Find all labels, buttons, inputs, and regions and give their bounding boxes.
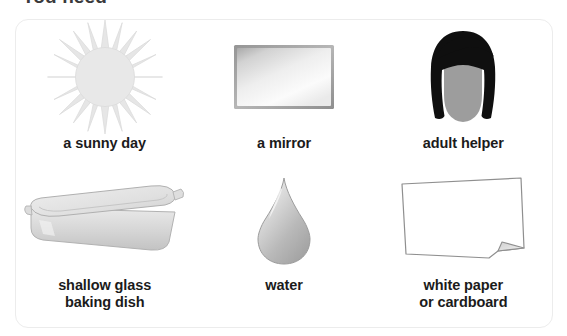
adult-helper-art [408, 23, 518, 131]
material-label: white paper or cardboard [419, 277, 507, 311]
materials-grid: a sunny day [15, 19, 553, 328]
water-art [249, 175, 319, 267]
page-title: You need [22, 0, 107, 8]
material-label: a mirror [257, 135, 311, 152]
baking-dish-art [25, 175, 185, 267]
material-item-baking-dish: shallow glass baking dish [15, 167, 194, 328]
material-item-water: water [194, 167, 373, 328]
adult-helper-icon [408, 23, 518, 131]
paper-art [393, 175, 533, 267]
sun-art [45, 23, 165, 131]
page-title-clip: You need [0, 0, 567, 9]
material-label: a sunny day [63, 135, 146, 152]
material-item-mirror: a mirror [194, 19, 373, 167]
material-item-sunny-day: a sunny day [15, 19, 194, 167]
material-label: water [265, 277, 302, 294]
material-item-white-paper: white paper or cardboard [374, 167, 553, 328]
material-label: adult helper [423, 135, 504, 152]
baking-dish-icon [25, 176, 185, 266]
water-drop-icon [249, 175, 319, 267]
material-item-adult-helper: adult helper [374, 19, 553, 167]
material-label: shallow glass baking dish [58, 277, 151, 311]
paper-sheet-icon [393, 175, 533, 267]
mirror-icon [228, 23, 340, 131]
sun-icon [45, 18, 165, 136]
mirror-art [228, 23, 340, 131]
